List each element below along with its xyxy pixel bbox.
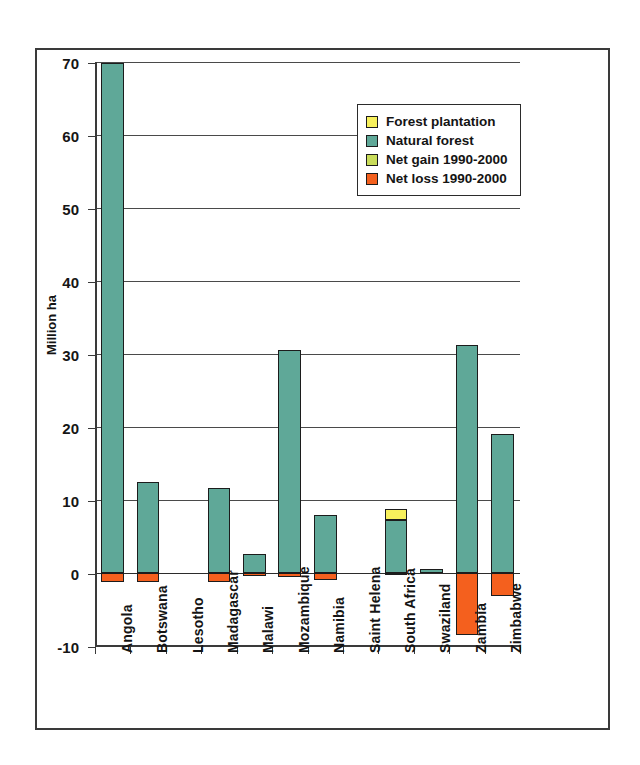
y-tick-label: 20 — [62, 420, 79, 437]
y-tick: 10 — [88, 501, 95, 502]
y-tick: 0 — [88, 574, 95, 575]
y-axis-line — [95, 62, 97, 646]
x-axis-label-namibia: Namibia — [331, 597, 347, 653]
bar-segment-natural-forest[interactable] — [314, 515, 337, 573]
y-tick-label: 50 — [62, 201, 79, 218]
y-tick: 20 — [88, 428, 95, 429]
bar-segment-natural-forest[interactable] — [137, 482, 160, 573]
y-tick-label: 40 — [62, 274, 79, 291]
y-tick: 70 — [88, 63, 95, 64]
x-axis-label-madagascar: Madagascar — [225, 570, 241, 653]
bar-segment-net-loss[interactable] — [243, 573, 266, 576]
x-axis-label-south-africa: South Africa — [402, 568, 418, 653]
bar-segment-net-loss[interactable] — [137, 573, 160, 582]
bar-segment-natural-forest[interactable] — [278, 350, 301, 573]
legend-swatch-icon — [366, 135, 378, 147]
x-axis-label-angola: Angola — [119, 604, 135, 653]
legend-swatch-icon — [366, 173, 378, 185]
bar-segment-net-loss[interactable] — [101, 573, 124, 582]
y-tick-label: 0 — [71, 566, 79, 583]
y-tick: 30 — [88, 355, 95, 356]
y-tick-label: 10 — [62, 493, 79, 510]
y-tick: 60 — [88, 136, 95, 137]
bar-segment-natural-forest[interactable] — [491, 434, 514, 573]
legend-swatch-icon — [366, 154, 378, 166]
legend-item[interactable]: Natural forest — [366, 131, 508, 150]
legend-item[interactable]: Forest plantation — [366, 112, 508, 131]
x-axis-label-zambia: Zambia — [473, 603, 489, 653]
bar-group[interactable] — [130, 62, 165, 646]
legend-item[interactable]: Net gain 1990-2000 — [366, 150, 508, 169]
legend-label: Forest plantation — [386, 114, 496, 129]
y-tick-label: 70 — [62, 55, 79, 72]
bar-group[interactable] — [308, 62, 343, 646]
x-tick — [95, 647, 96, 654]
bar-segment-forest-plantation[interactable] — [385, 509, 408, 520]
bar-segment-natural-forest[interactable] — [456, 345, 479, 573]
y-tick: 40 — [88, 282, 95, 283]
bar-group[interactable] — [237, 62, 272, 646]
x-axis-label-saint-helena: Saint Helena — [367, 567, 383, 653]
y-tick-label: 60 — [62, 128, 79, 145]
bar-group[interactable] — [166, 62, 201, 646]
y-tick: 50 — [88, 209, 95, 210]
bar-segment-natural-forest[interactable] — [101, 63, 124, 573]
bar-group[interactable] — [272, 62, 307, 646]
x-axis-label-lesotho: Lesotho — [190, 597, 206, 653]
bar-group[interactable] — [95, 62, 130, 646]
x-axis-label-mozambique: Mozambique — [296, 566, 312, 653]
y-tick-label: 30 — [62, 347, 79, 364]
legend-swatch-icon — [366, 116, 378, 128]
bar-segment-natural-forest[interactable] — [208, 488, 231, 573]
y-tick-label: -10 — [57, 639, 79, 656]
bar-segment-net-loss[interactable] — [314, 573, 337, 580]
legend-label: Net loss 1990-2000 — [386, 171, 507, 186]
legend-item[interactable]: Net loss 1990-2000 — [366, 169, 508, 188]
y-axis-title: Million ha — [44, 295, 59, 355]
x-axis-label-swaziland: Swaziland — [437, 584, 453, 653]
x-axis-label-botswana: Botswana — [154, 585, 170, 653]
bar-segment-natural-forest[interactable] — [243, 554, 266, 573]
bar-group[interactable] — [201, 62, 236, 646]
x-axis-label-malawi: Malawi — [260, 606, 276, 653]
legend-label: Net gain 1990-2000 — [386, 152, 508, 167]
bar-segment-natural-forest[interactable] — [420, 569, 443, 573]
x-axis-label-zimbabwe: Zimbabwe — [508, 583, 524, 653]
bar-segment-natural-forest[interactable] — [385, 520, 408, 573]
y-tick: -10 — [88, 647, 95, 648]
legend-label: Natural forest — [386, 133, 474, 148]
chart-legend: Forest plantationNatural forestNet gain … — [357, 104, 521, 196]
